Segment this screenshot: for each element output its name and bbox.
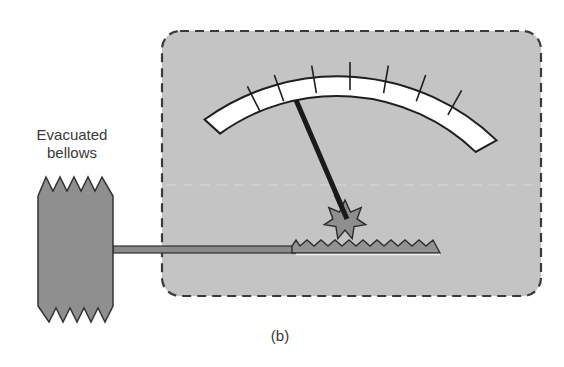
bellows-label-line1: Evacuated bbox=[12, 126, 132, 144]
evacuated-bellows bbox=[38, 177, 113, 322]
figure-caption: (b) bbox=[256, 327, 304, 345]
gauge-housing bbox=[162, 31, 541, 296]
aneroid-barometer-diagram bbox=[0, 0, 564, 367]
bellows-label-line2: bellows bbox=[12, 144, 132, 162]
bellows-label: Evacuated bellows bbox=[12, 126, 132, 162]
connecting-rod bbox=[113, 246, 295, 253]
